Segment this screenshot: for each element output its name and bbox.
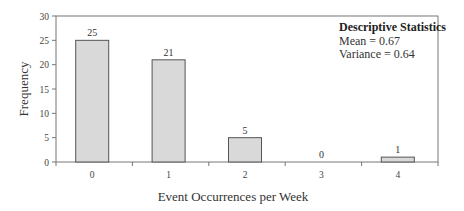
y-tick-label: 10 xyxy=(40,109,50,119)
y-tick-label: 30 xyxy=(40,12,50,22)
stats-mean: Mean = 0.67 xyxy=(339,34,400,48)
y-tick-label: 15 xyxy=(40,85,50,95)
bar-value-label: 25 xyxy=(87,27,97,38)
y-tick-label: 5 xyxy=(44,133,49,143)
bar-value-label: 5 xyxy=(243,125,248,136)
y-tick-label: 0 xyxy=(44,158,49,168)
stats-variance: Variance = 0.64 xyxy=(339,47,415,61)
bar-2 xyxy=(229,138,262,162)
y-axis-title: Frequency xyxy=(16,61,31,116)
bar-chart: 051015202530 01234 2521501 Event Occurre… xyxy=(0,0,464,211)
x-tick-label: 4 xyxy=(395,170,400,180)
bar-value-label: 0 xyxy=(319,149,324,160)
y-axis: 051015202530 xyxy=(40,12,57,168)
bar-value-label: 21 xyxy=(164,47,174,58)
y-tick-label: 20 xyxy=(40,60,50,70)
x-tick-label: 1 xyxy=(166,170,171,180)
x-tick-label: 3 xyxy=(319,170,324,180)
bar-1 xyxy=(152,60,185,162)
bar-4 xyxy=(381,157,414,162)
bar-value-label: 1 xyxy=(395,144,400,155)
y-tick-label: 25 xyxy=(40,36,50,46)
x-axis-title: Event Occurrences per Week xyxy=(158,189,309,204)
bar-0 xyxy=(76,40,109,162)
descriptive-statistics-box: Descriptive Statistics Mean = 0.67 Varia… xyxy=(339,20,446,61)
x-tick-label: 0 xyxy=(90,170,95,180)
stats-title: Descriptive Statistics xyxy=(339,20,446,34)
x-axis: 01234 xyxy=(56,162,438,180)
x-tick-label: 2 xyxy=(243,170,248,180)
